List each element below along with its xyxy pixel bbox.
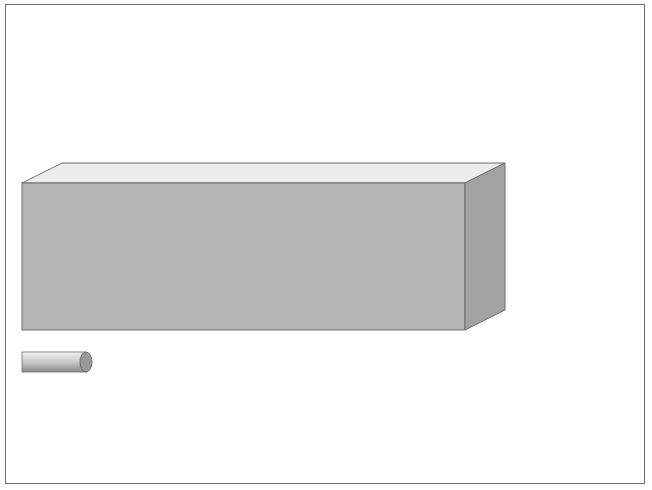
cho-cylinder (22, 352, 86, 372)
membrane-slab (22, 163, 505, 330)
membrane-topology-diagram (0, 0, 652, 490)
glycosylation-site (22, 352, 92, 372)
membrane-side-face (465, 163, 505, 330)
membrane-front-face (22, 183, 465, 330)
glycosylated-asparagine (80, 352, 92, 372)
membrane-top-face (22, 163, 505, 183)
